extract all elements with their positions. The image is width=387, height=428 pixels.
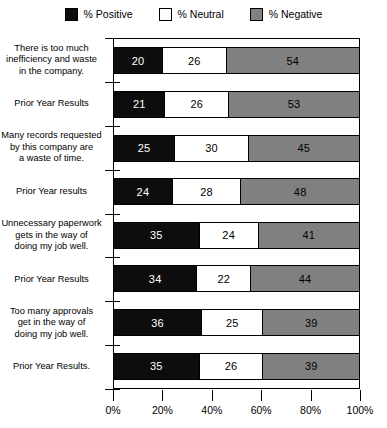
bar-value-label: 22: [217, 273, 230, 285]
category-row: Prior Year Results: [0, 82, 112, 126]
bar-row: 352639: [114, 344, 359, 388]
bar-row: 242848: [114, 170, 359, 214]
x-axis-tick: [162, 390, 163, 401]
bar-value-label: 34: [149, 273, 162, 285]
bar-segment-negative[interactable]: 53: [229, 91, 359, 118]
black-square-icon: [65, 8, 78, 21]
category-row: Prior Year results: [0, 170, 112, 214]
bar-segment-neutral[interactable]: 26: [200, 353, 264, 380]
bar-segment-negative[interactable]: 44: [251, 265, 359, 292]
bar-row: 342244: [114, 257, 359, 301]
bar-value-label: 53: [288, 98, 301, 110]
bar-segment-positive[interactable]: 35: [114, 353, 200, 380]
category-axis: There is too muchinefficiency and wastei…: [0, 38, 112, 389]
x-axis-tick: [212, 390, 213, 401]
stacked-bar[interactable]: 253045: [114, 135, 359, 162]
bar-row: 212653: [114, 83, 359, 127]
bar-value-label: 28: [200, 186, 213, 198]
legend-item-neutral: % Neutral: [159, 8, 224, 21]
bar-segment-positive[interactable]: 35: [114, 222, 200, 249]
bar-row: 352441: [114, 214, 359, 258]
bar-value-label: 39: [305, 317, 318, 329]
white-square-icon: [159, 8, 172, 21]
bar-segment-neutral[interactable]: 26: [163, 47, 227, 74]
bar-segment-neutral[interactable]: 22: [197, 265, 251, 292]
bar-segment-neutral[interactable]: 30: [175, 135, 249, 162]
bar-segment-negative[interactable]: 45: [249, 135, 359, 162]
category-row: Prior Year Results: [0, 257, 112, 301]
category-label: Prior Year results: [0, 186, 103, 198]
legend-label-negative: % Negative: [269, 9, 323, 20]
bar-segment-neutral[interactable]: 24: [200, 222, 259, 249]
bar-value-label: 35: [150, 229, 163, 241]
category-row: Prior Year Results.: [0, 345, 112, 389]
category-label: There is too muchinefficiency and wastei…: [0, 43, 103, 78]
stacked-bar[interactable]: 242848: [114, 178, 359, 205]
stacked-bar-chart: There is too muchinefficiency and wastei…: [0, 38, 387, 428]
stacked-bar[interactable]: 202654: [114, 47, 359, 74]
bar-segment-positive[interactable]: 21: [114, 91, 165, 118]
bar-value-label: 54: [287, 55, 300, 67]
category-label: Prior Year Results.: [0, 361, 103, 373]
stacked-bar[interactable]: 342244: [114, 265, 359, 292]
bar-row: 202654: [114, 39, 359, 83]
legend-label-neutral: % Neutral: [178, 9, 224, 20]
category-label: Prior Year Results: [0, 274, 103, 286]
bar-segment-positive[interactable]: 36: [114, 309, 202, 336]
x-axis-tick: [113, 390, 114, 401]
x-axis-tick-label: 100%: [347, 404, 374, 416]
bar-value-label: 44: [299, 273, 312, 285]
bar-value-label: 36: [151, 317, 164, 329]
bar-value-label: 21: [133, 98, 146, 110]
legend-item-positive: % Positive: [65, 8, 133, 21]
plot-area: 2026542126532530452428483524413422443625…: [113, 38, 360, 389]
bar-value-label: 26: [190, 98, 203, 110]
bar-segment-negative[interactable]: 39: [263, 353, 359, 380]
bar-segment-negative[interactable]: 39: [263, 309, 359, 336]
category-row: Many records requestedby this company ar…: [0, 126, 112, 170]
category-row: Unnecessary paperworkgets in the way ofd…: [0, 214, 112, 258]
category-label: Prior Year Results: [0, 98, 103, 110]
bar-segment-negative[interactable]: 48: [241, 178, 359, 205]
x-axis-tick-label: 60%: [251, 404, 272, 416]
x-axis-tick-label: 80%: [300, 404, 321, 416]
bar-value-label: 41: [302, 229, 315, 241]
bar-value-label: 39: [305, 360, 318, 372]
category-label: Unnecessary paperworkgets in the way ofd…: [0, 218, 103, 253]
bar-value-label: 24: [222, 229, 235, 241]
x-axis-tick-label: 0%: [105, 404, 120, 416]
stacked-bar[interactable]: 352639: [114, 353, 359, 380]
bar-value-label: 26: [225, 360, 238, 372]
stacked-bar[interactable]: 362539: [114, 309, 359, 336]
bar-segment-positive[interactable]: 25: [114, 135, 175, 162]
bar-value-label: 30: [205, 142, 218, 154]
bar-value-label: 26: [188, 55, 201, 67]
bar-segment-negative[interactable]: 54: [227, 47, 359, 74]
bar-value-label: 25: [226, 317, 239, 329]
bar-value-label: 35: [150, 360, 163, 372]
bar-value-label: 20: [132, 55, 145, 67]
bar-segment-negative[interactable]: 41: [259, 222, 359, 249]
category-label: Many records requestedby this company ar…: [0, 130, 103, 165]
gray-square-icon: [250, 8, 263, 21]
stacked-bar[interactable]: 212653: [114, 91, 359, 118]
x-axis-tick: [261, 390, 262, 401]
bar-segment-neutral[interactable]: 25: [202, 309, 263, 336]
x-axis-tick: [360, 390, 361, 401]
category-label: Too many approvalsget in the way ofdoing…: [0, 306, 103, 341]
bar-value-label: 24: [137, 186, 150, 198]
bar-segment-positive[interactable]: 24: [114, 178, 173, 205]
bar-segment-positive[interactable]: 34: [114, 265, 197, 292]
bar-segment-positive[interactable]: 20: [114, 47, 163, 74]
bar-row: 253045: [114, 126, 359, 170]
x-axis-labels: 0%20%40%60%80%100%: [113, 404, 360, 420]
x-axis: [113, 395, 360, 396]
bar-row: 362539: [114, 301, 359, 345]
chart-legend: % Positive % Neutral % Negative: [0, 8, 387, 21]
bar-value-label: 48: [294, 186, 307, 198]
bar-segment-neutral[interactable]: 26: [165, 91, 229, 118]
category-row: Too many approvalsget in the way ofdoing…: [0, 301, 112, 345]
x-axis-tick-label: 40%: [201, 404, 222, 416]
stacked-bar[interactable]: 352441: [114, 222, 359, 249]
bar-segment-neutral[interactable]: 28: [173, 178, 242, 205]
